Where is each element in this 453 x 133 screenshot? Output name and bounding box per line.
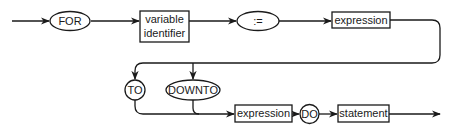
node-for: FOR <box>50 12 90 31</box>
to-label: TO <box>127 84 143 96</box>
node-expression-1: expression <box>332 12 390 28</box>
node-do: DO <box>300 105 319 124</box>
node-downto: DOWNTO <box>166 80 220 100</box>
node-expression-2: expression <box>235 105 292 122</box>
variable-label: variable <box>145 13 184 25</box>
statement-label: statement <box>339 107 387 119</box>
for-label: FOR <box>58 15 81 27</box>
downto-label: DOWNTO <box>168 84 218 96</box>
node-to: TO <box>125 80 145 100</box>
node-statement: statement <box>338 105 389 122</box>
for-statement-syntax-diagram: FOR variable identifier := expression TO… <box>0 0 453 133</box>
node-assign: := <box>237 12 279 31</box>
arrow-downto-to-expression <box>193 100 199 114</box>
expression-1-label: expression <box>334 14 387 26</box>
identifier-label: identifier <box>144 27 186 39</box>
node-variable-identifier: variable identifier <box>140 11 189 42</box>
expression-2-label: expression <box>237 107 290 119</box>
assign-label: := <box>253 15 262 27</box>
do-label: DO <box>301 108 318 120</box>
arrow-to-to-expression <box>135 100 234 114</box>
connector-lines <box>12 20 440 114</box>
